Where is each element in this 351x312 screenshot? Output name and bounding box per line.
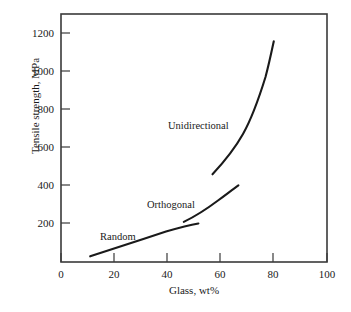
y-tick-label-200: 200 — [14, 218, 54, 229]
x-tick-label-60: 60 — [200, 269, 240, 280]
curve-label-orthogonal: Orthogonal — [147, 199, 195, 210]
x-tick-label-80: 80 — [253, 269, 293, 280]
x-axis-title: Glass, wt% — [61, 284, 327, 296]
y-axis-ticks — [61, 33, 70, 223]
x-axis-ticks — [61, 253, 327, 262]
curve-unidirectional — [213, 41, 274, 174]
curve-label-random: Random — [100, 231, 136, 242]
x-tick-label-40: 40 — [147, 269, 187, 280]
x-tick-label-20: 20 — [94, 269, 134, 280]
plot-canvas — [0, 0, 351, 312]
chart-figure: 1200 1000 800 600 400 200 0 20 40 60 80 … — [0, 0, 351, 312]
x-tick-label-100: 100 — [307, 269, 347, 280]
curve-label-unidirectional: Unidirectional — [168, 120, 229, 131]
x-tick-label-0: 0 — [41, 269, 81, 280]
y-axis-title: Tensile strength, MPa — [29, 26, 41, 186]
